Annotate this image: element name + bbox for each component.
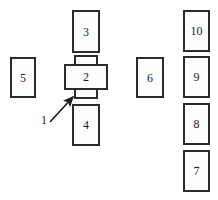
part-box-3[interactable]: 3 (72, 10, 100, 53)
part-label-7: 7 (194, 165, 200, 177)
part-box-2[interactable]: 2 (64, 64, 108, 90)
part-label-10: 10 (191, 25, 203, 37)
technical-diagram: 10 9 8 7 5 6 3 4 2 1 (0, 0, 218, 200)
part-label-4: 4 (83, 119, 89, 131)
part-box-4[interactable]: 4 (72, 104, 100, 146)
part-box-5[interactable]: 5 (10, 57, 36, 98)
part-box-10[interactable]: 10 (183, 10, 210, 52)
callout-label-1: 1 (41, 114, 47, 126)
part-box-8[interactable]: 8 (183, 103, 210, 145)
part-label-3: 3 (83, 26, 89, 38)
part-label-2: 2 (83, 71, 89, 83)
part-label-9: 9 (194, 71, 200, 83)
part-box-9[interactable]: 9 (183, 56, 210, 98)
part-label-6: 6 (147, 72, 153, 84)
part-box-6[interactable]: 6 (136, 57, 164, 98)
part-box-7[interactable]: 7 (183, 150, 210, 192)
part-label-5: 5 (20, 72, 26, 84)
part-label-8: 8 (194, 118, 200, 130)
